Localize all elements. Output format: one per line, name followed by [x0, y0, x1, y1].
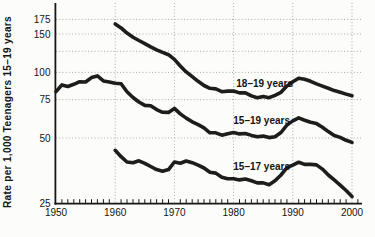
series-label-15-17-years: 15–17 years: [233, 161, 290, 172]
axis-ticks: [62, 199, 358, 203]
x-tick-label-1950: 1950: [45, 207, 68, 218]
y-tick-label-50: 50: [39, 133, 51, 144]
tick-labels: 175150100755025195019601970198019902000: [34, 14, 364, 218]
x-tick-label-1990: 1990: [282, 207, 305, 218]
y-tick-label-150: 150: [34, 29, 51, 40]
x-tick-label-1970: 1970: [163, 207, 186, 218]
x-tick-label-2000: 2000: [341, 207, 364, 218]
series-label-15-19-years: 15–19 years: [233, 115, 290, 126]
series-label-18-19-years: 18–19 years: [236, 78, 293, 89]
x-tick-label-1960: 1960: [104, 207, 127, 218]
series-lines: [56, 24, 352, 197]
teen-birth-rate-chart: 175150100755025195019601970198019902000 …: [0, 0, 375, 237]
y-tick-label-75: 75: [39, 94, 51, 105]
y-axis-title: Rate per 1,000 Teenagers 15–19 years: [2, 16, 13, 208]
axes: [55, 3, 363, 205]
y-tick-label-100: 100: [34, 67, 51, 78]
x-tick-label-1980: 1980: [222, 207, 245, 218]
chart-canvas: 175150100755025195019601970198019902000 …: [0, 0, 375, 237]
y-tick-label-175: 175: [34, 14, 51, 25]
